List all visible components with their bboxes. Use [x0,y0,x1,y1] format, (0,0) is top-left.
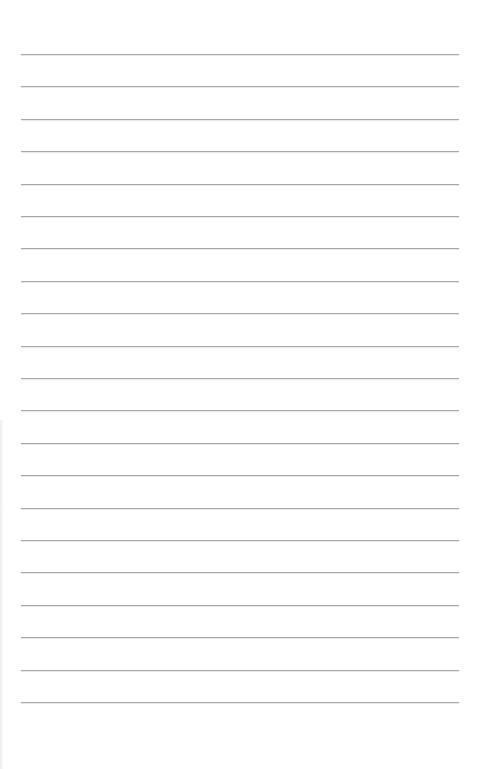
ruled-line [21,346,459,347]
page-edge-shadow [0,420,4,769]
ruled-line [21,151,459,152]
ruled-line [21,54,459,55]
ruled-line [21,119,459,120]
ruled-line [21,540,459,541]
ruled-line [21,572,459,573]
ruled-line [21,184,459,185]
ruled-line [21,443,459,444]
ruled-line [21,281,459,282]
ruled-line [21,248,459,249]
ruled-line [21,670,459,671]
ruled-line [21,216,459,217]
ruled-line [21,605,459,606]
ruled-line [21,508,459,509]
ruled-line [21,313,459,314]
ruled-line [21,378,459,379]
ruled-line [21,86,459,87]
lined-paper-page [0,0,484,769]
ruled-line [21,637,459,638]
ruled-line [21,410,459,411]
ruled-line [21,702,459,703]
ruled-line [21,475,459,476]
